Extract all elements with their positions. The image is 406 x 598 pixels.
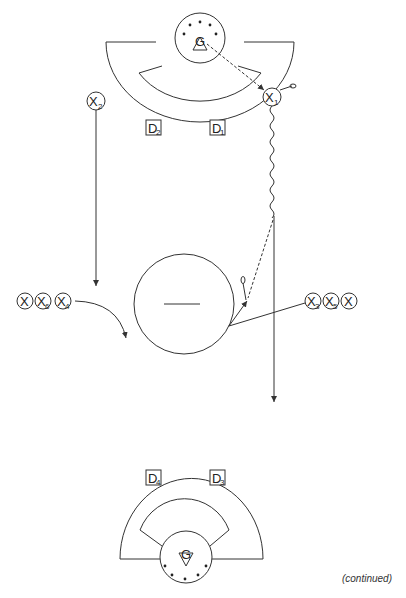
defender-d3: D 3 <box>210 470 225 487</box>
svg-text:X: X <box>344 294 353 309</box>
svg-text:2: 2 <box>156 128 161 137</box>
player-x1: X 1 <box>263 84 296 107</box>
caption: (continued) <box>342 573 392 584</box>
player-x6: X6 <box>35 293 51 311</box>
bottom-goal-area: G <box>120 478 263 583</box>
defender-d2: D 2 <box>146 120 161 137</box>
player-x3: X3 <box>305 293 321 311</box>
player-x2: X 2 <box>87 92 105 111</box>
svg-text:1: 1 <box>220 128 225 137</box>
skate-line-x4 <box>75 301 126 338</box>
svg-text:3: 3 <box>315 302 320 311</box>
pass-line-x1 <box>248 220 273 298</box>
svg-text:3: 3 <box>220 478 225 487</box>
defender-d4: D 4 <box>146 470 161 487</box>
top-goal-area: G <box>106 13 294 122</box>
svg-text:X: X <box>89 94 98 109</box>
player-x4: X4 <box>55 293 71 311</box>
player-x-left: X <box>17 293 33 309</box>
pass-line-g-to-x1 <box>207 44 264 90</box>
skate-line-x3-to-puck <box>229 301 247 326</box>
svg-text:X: X <box>265 90 274 105</box>
svg-text:4: 4 <box>65 302 70 311</box>
left-line-players: X X6 X4 <box>17 293 71 311</box>
top-inner-arc <box>139 66 261 101</box>
defender-d1: D 1 <box>210 120 225 137</box>
bottom-goalie-label: G <box>181 547 191 562</box>
svg-text:2: 2 <box>98 102 103 111</box>
puck-icon-center <box>241 277 245 284</box>
skate-with-puck-line <box>270 106 274 218</box>
skate-line-x3 <box>229 303 305 326</box>
svg-text:X: X <box>20 294 29 309</box>
stick-x3 <box>243 283 246 300</box>
center-circle <box>134 254 234 354</box>
player-x-right: X <box>341 293 357 309</box>
drill-diagram: G D 2 D 1 X 1 X 2 X X6 X4 <box>0 0 406 598</box>
player-x5: X5 <box>323 293 339 311</box>
right-line-players: X3 X5 X <box>305 293 357 311</box>
svg-text:5: 5 <box>333 302 338 311</box>
svg-text:6: 6 <box>45 302 50 311</box>
svg-text:1: 1 <box>274 98 279 107</box>
top-goalie-label: G <box>195 34 205 49</box>
svg-text:4: 4 <box>156 478 161 487</box>
